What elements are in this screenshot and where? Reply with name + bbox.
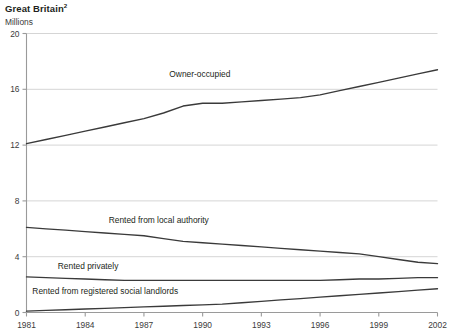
y-axis-tick-label: 4 [15, 252, 20, 262]
y-axis-labels-group: 048121620 [10, 29, 20, 318]
series-line [27, 227, 438, 263]
y-tick-marks-group [23, 34, 27, 313]
x-axis-labels-group: 19811984198719901993199619992002 [17, 320, 447, 330]
series-labels-group: Owner-occupiedRented from local authorit… [32, 69, 230, 296]
x-axis-tick-label: 1993 [252, 320, 271, 330]
series-label: Rented from local authority [109, 215, 210, 225]
y-axis-tick-label: 16 [10, 84, 20, 94]
y-axis-tick-label: 0 [15, 308, 20, 318]
gridlines-group [27, 34, 438, 257]
series-line [27, 70, 438, 144]
y-axis-tick-label: 20 [10, 29, 20, 39]
x-axis-tick-label: 1990 [193, 320, 212, 330]
chart-plot-area: 048121620 198119841987199019931996199920… [0, 0, 451, 335]
series-label: Rented privately [58, 261, 119, 271]
x-axis-tick-label: 2002 [428, 320, 447, 330]
x-tick-marks-group [27, 313, 438, 317]
y-axis-tick-label: 12 [10, 140, 20, 150]
series-lines-group [27, 70, 438, 311]
y-axis-tick-label: 8 [15, 196, 20, 206]
x-axis-tick-label: 1984 [76, 320, 95, 330]
series-label: Owner-occupied [169, 69, 230, 79]
housing-tenure-chart: Great Britain2 Millions 048121620 198119… [0, 0, 451, 335]
x-axis-tick-label: 1981 [17, 320, 36, 330]
x-axis-tick-label: 1999 [369, 320, 388, 330]
x-axis-tick-label: 1996 [311, 320, 330, 330]
series-line [27, 277, 438, 280]
series-label: Rented from registered social landlords [32, 286, 178, 296]
x-axis-tick-label: 1987 [135, 320, 154, 330]
